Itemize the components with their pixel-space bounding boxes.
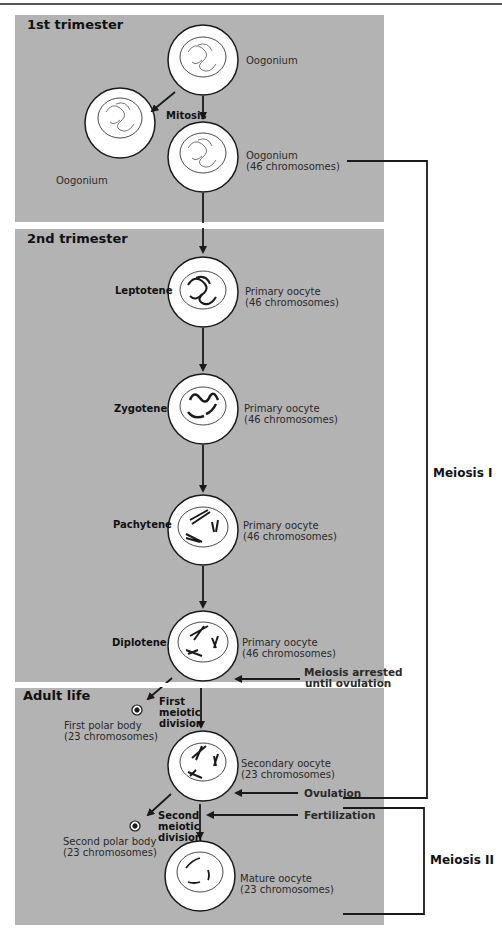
stage-leptotene: Leptotene xyxy=(115,285,172,296)
label-oogonium-46: Oogonium (46 chromosomes) xyxy=(246,150,340,172)
label-mitosis: Mitosis xyxy=(166,110,206,121)
label-pachytene-cell: Primary oocyte (46 chromosomes) xyxy=(243,520,337,542)
cell-oogonium-top xyxy=(168,25,238,95)
cell-secondary-oocyte xyxy=(168,731,238,801)
label-second-meiotic-division: Second meiotic division xyxy=(158,810,202,843)
label-oogonium-left: Oogonium xyxy=(56,175,108,186)
arrow-mitosis-left xyxy=(152,92,175,111)
label-leptotene-cell: Primary oocyte (46 chromosomes) xyxy=(245,286,339,308)
label-meiosis-2: Meiosis II xyxy=(430,853,494,867)
cell-oogonium-left xyxy=(85,88,155,158)
label-meiosis-1: Meiosis I xyxy=(433,466,492,480)
label-secondary-oocyte: Secondary oocyte (23 chromosomes) xyxy=(241,758,335,780)
stage-diplotene: Diplotene xyxy=(112,637,167,648)
stage-zygotene: Zygotene xyxy=(114,403,167,414)
cell-leptotene xyxy=(168,257,238,327)
label-first-polar-body: First polar body (23 chromosomes) xyxy=(64,720,158,742)
cell-mature-oocyte xyxy=(165,841,235,911)
cell-oogonium-46 xyxy=(168,122,238,192)
label-second-polar-body: Second polar body (23 chromosomes) xyxy=(63,836,157,858)
stage-pachytene: Pachytene xyxy=(113,519,172,530)
label-meiosis-arrested: Meiosis arrested until ovulation xyxy=(304,667,403,689)
label-fertilization: Fertilization xyxy=(304,810,375,821)
cell-diplotene xyxy=(168,611,238,681)
label-diplotene-cell: Primary oocyte (46 chromosomes) xyxy=(242,637,336,659)
second-polar-body xyxy=(130,821,140,831)
label-zygotene-cell: Primary oocyte (46 chromosomes) xyxy=(244,403,338,425)
bracket-meiosis-2 xyxy=(343,808,424,914)
label-oogonium-top: Oogonium xyxy=(246,55,298,66)
diagram-graphics xyxy=(0,0,502,929)
label-first-meiotic-division: First meiotic division xyxy=(159,696,203,729)
cell-zygotene xyxy=(168,374,238,444)
cell-pachytene xyxy=(168,495,238,565)
label-mature-oocyte: Mature oocyte (23 chromosomes) xyxy=(240,873,334,895)
bracket-meiosis-1 xyxy=(343,161,427,798)
first-polar-body xyxy=(132,705,142,715)
label-ovulation: Ovulation xyxy=(304,788,361,799)
